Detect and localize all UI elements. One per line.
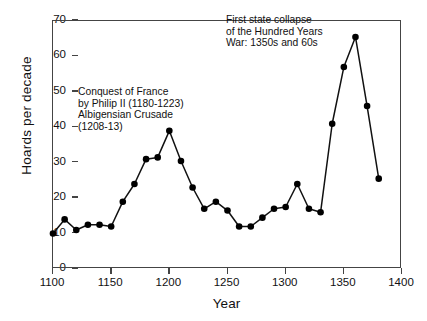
annotation-line: War: 1350s and 60s: [226, 37, 323, 49]
x-tick-label: 1250: [197, 276, 257, 289]
data-point: [85, 221, 92, 228]
chart-figure: 0 10 20 30 40 50 60 70: [0, 0, 427, 321]
data-point: [213, 198, 220, 205]
data-point: [189, 184, 196, 191]
series-markers: [50, 34, 382, 237]
data-point: [306, 205, 313, 212]
annotation-line: Albigensian Crusade: [78, 109, 184, 121]
x-tick-label: 1350: [313, 276, 373, 289]
data-point: [236, 223, 243, 230]
x-tick-label: 1100: [22, 276, 82, 289]
data-point: [375, 175, 382, 182]
data-point: [96, 221, 103, 228]
data-point: [247, 223, 254, 230]
data-point: [224, 207, 231, 214]
data-point: [50, 230, 57, 237]
data-point: [73, 227, 80, 234]
x-tick-label: 1400: [371, 276, 427, 289]
annotation-conquest-of-france: Conquest of Franceby Philip II (1180-122…: [78, 86, 184, 132]
data-point: [201, 205, 208, 212]
y-axis-title: Hoards per decade: [19, 46, 34, 186]
data-point: [259, 214, 266, 221]
x-tick-label: 1300: [255, 276, 315, 289]
data-point: [317, 209, 324, 216]
x-axis-title: Year: [52, 296, 401, 311]
annotation-line: First state collapse: [226, 14, 323, 26]
data-point: [282, 204, 289, 211]
data-point: [352, 34, 359, 41]
annotation-line: of the Hundred Years: [226, 26, 323, 38]
data-point: [108, 223, 115, 230]
annotation-line: by Philip II (1180-1223): [78, 98, 184, 110]
data-series: [53, 21, 402, 269]
annotation-line: Conquest of France: [78, 86, 184, 98]
annotation-hundred-years-war: First state collapseof the Hundred Years…: [226, 14, 323, 49]
data-point: [294, 181, 301, 188]
data-point: [131, 181, 138, 188]
data-point: [178, 158, 185, 165]
data-point: [271, 205, 278, 212]
annotation-line: (1208-13): [78, 121, 184, 133]
data-point: [341, 64, 348, 71]
data-point: [154, 154, 161, 161]
data-point: [143, 156, 150, 163]
data-point: [329, 120, 336, 127]
x-tick-label: 1200: [138, 276, 198, 289]
data-point: [120, 198, 127, 205]
x-tick-label: 1150: [80, 276, 140, 289]
data-point: [364, 103, 371, 110]
plot-area: [52, 20, 401, 268]
data-point: [61, 216, 68, 223]
